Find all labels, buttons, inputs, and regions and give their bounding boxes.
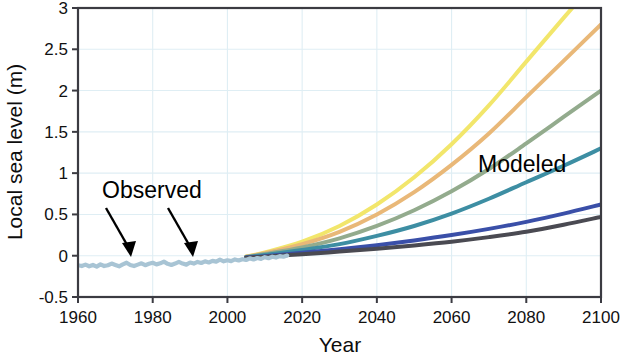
x-axis-tick-label: 1960 — [59, 308, 97, 327]
y-axis-tick-label: -0.5 — [39, 288, 68, 307]
observed-arrow-left — [106, 208, 136, 257]
y-axis-ticks: -0.500.511.522.53 — [39, 0, 78, 307]
observed-arrow-right — [168, 208, 198, 257]
chart-canvas: -0.500.511.522.53 1960198020002020204020… — [0, 0, 624, 360]
y-axis-tick-label: 1 — [59, 164, 68, 183]
x-axis-tick-label: 2100 — [582, 308, 620, 327]
y-axis-tick-label: 0.5 — [44, 205, 68, 224]
x-axis-ticks: 19601980200020202040206020802100 — [59, 297, 620, 327]
y-axis-tick-label: 2.5 — [44, 40, 68, 59]
data-curves-group — [246, 0, 601, 258]
observed-curve-group — [78, 256, 287, 267]
y-axis-tick-label: 1.5 — [44, 123, 68, 142]
x-axis-tick-label: 2040 — [358, 308, 396, 327]
modeled-annotation-label: Modeled — [478, 151, 566, 177]
x-axis-tick-label: 2000 — [209, 308, 247, 327]
x-axis-tick-label: 1980 — [134, 308, 172, 327]
sea-level-chart-figure: -0.500.511.522.53 1960198020002020204020… — [0, 0, 624, 360]
observed-curve — [78, 256, 287, 267]
observed-annotation-label: Observed — [102, 177, 202, 203]
x-axis-title: Year — [319, 333, 361, 356]
y-axis-tick-label: 0 — [59, 247, 68, 266]
x-axis-tick-label: 2020 — [283, 308, 321, 327]
x-axis-tick-label: 2060 — [433, 308, 471, 327]
y-axis-title: Local sea level (m) — [3, 64, 26, 240]
y-axis-tick-label: 3 — [59, 0, 68, 18]
x-axis-tick-label: 2080 — [507, 308, 545, 327]
y-axis-tick-label: 2 — [59, 82, 68, 101]
